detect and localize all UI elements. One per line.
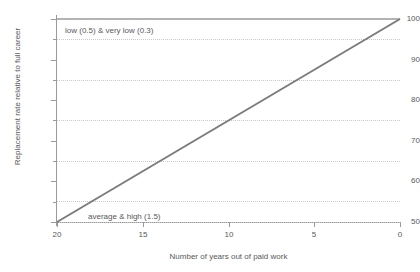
plot-area [57,19,400,222]
x-axis-label-20: 20 [37,231,77,239]
y-axis-title: Replacement rate relative to full career [13,17,22,177]
gridline-65 [57,161,400,162]
gridline-55 [57,201,400,202]
x-tick-5 [314,222,315,227]
annotation-low-very-low: low (0.5) & very low (0.3) [65,26,153,35]
gridline-75 [57,120,400,121]
x-axis-label-10: 10 [209,231,249,239]
annotation-average-high: average & high (1.5) [88,212,161,221]
x-axis-title: Number of years out of paid work [57,252,400,261]
gridline-85 [57,80,400,81]
x-axis-label-15: 15 [123,231,163,239]
x-tick-20 [57,222,58,227]
x-tick-15 [143,222,144,227]
gridline-95 [57,39,400,40]
x-tick-0 [400,222,401,227]
chart-figure: 100 90 80 70 60 50 20 15 10 5 0 low (0.5… [0,0,420,272]
x-axis-label-5: 5 [294,231,334,239]
x-axis-label-0: 0 [380,231,420,239]
x-tick-10 [229,222,230,227]
